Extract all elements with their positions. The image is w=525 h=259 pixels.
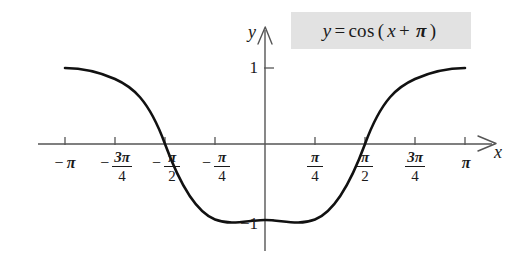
fraction-numerator: 3π — [405, 150, 425, 165]
fraction-numerator: π — [166, 150, 178, 165]
fraction: π 4 — [214, 150, 230, 185]
minus-sign: − — [202, 150, 214, 171]
fraction-bar — [214, 166, 230, 167]
equation-label: y = cos ( x + π ) — [291, 12, 471, 49]
fraction-bar — [307, 166, 323, 167]
fraction-numerator: π — [359, 150, 371, 165]
equation-pi: π — [413, 20, 427, 42]
fraction-denominator: 4 — [409, 168, 421, 184]
fraction-numerator: π — [309, 150, 321, 165]
equation-close-paren: ) — [427, 20, 440, 42]
fraction-denominator: 2 — [359, 168, 371, 184]
equation-lhs: y — [323, 20, 332, 42]
fraction-denominator: 4 — [216, 168, 228, 184]
minus-sign: − — [152, 150, 164, 171]
x-tick-label-neg-pi-over-4: − π 4 — [181, 150, 251, 185]
minus-sign: − — [55, 150, 67, 171]
equation-equals: = — [331, 20, 348, 42]
fraction-numerator: π — [216, 150, 228, 165]
pi-glyph: π — [462, 150, 471, 171]
pi-glyph: π — [67, 150, 76, 171]
y-axis-label: y — [248, 23, 256, 41]
fraction-numerator: 3π — [112, 150, 132, 165]
equation-function: cos — [348, 20, 374, 42]
fraction: 3π 4 — [112, 150, 132, 185]
fraction-denominator: 4 — [116, 168, 128, 184]
equation-argument: x — [387, 20, 396, 42]
fraction-bar — [357, 166, 373, 167]
fraction-bar — [112, 166, 132, 167]
fraction-denominator: 4 — [309, 168, 321, 184]
fraction: π 2 — [357, 150, 373, 185]
minus-sign: − — [100, 150, 112, 171]
fraction: π 4 — [307, 150, 323, 185]
equation-plus: + — [396, 20, 413, 42]
y-tick-label-1: 1 — [232, 59, 258, 76]
figure-canvas: y = cos ( x + π ) y x 1 −1 − π − 3π 4 − … — [0, 0, 525, 259]
fraction-bar — [164, 166, 180, 167]
fraction: 3π 4 — [405, 150, 425, 185]
x-tick-label-pi: π — [431, 150, 501, 171]
fraction-denominator: 2 — [166, 168, 178, 184]
y-tick-label-minus-1: −1 — [222, 215, 258, 232]
fraction-bar — [405, 166, 425, 167]
equation-open-paren: ( — [375, 20, 388, 42]
fraction: π 2 — [164, 150, 180, 185]
